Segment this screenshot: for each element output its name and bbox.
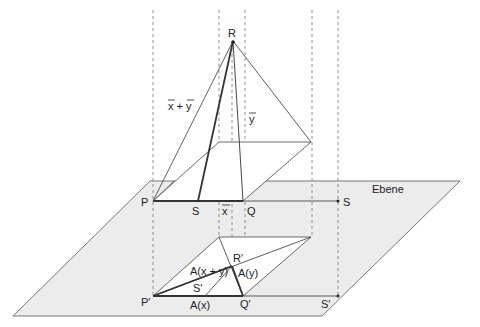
diagram-canvas: R P S Q S x y x + y Ebene R′ P′ S′ Q′ S′… <box>0 0 480 327</box>
label-R: R <box>228 27 236 39</box>
label-x-plus-y: x + y <box>168 100 192 112</box>
label-Q-prime: Q′ <box>240 298 251 310</box>
label-ebene: Ebene <box>372 183 404 195</box>
label-x-vector: x <box>222 205 228 217</box>
label-R-prime: R′ <box>233 252 243 264</box>
label-y-vector: y <box>249 113 255 125</box>
label-S-right: S <box>343 196 350 208</box>
label-A-x: A(x) <box>190 299 210 311</box>
label-P-prime: P′ <box>141 296 150 308</box>
parallel-projection-diagram: R P S Q S x y x + y Ebene R′ P′ S′ Q′ S′… <box>0 0 480 327</box>
label-S: S <box>192 205 199 217</box>
label-S-prime: S′ <box>193 282 202 294</box>
label-P: P <box>141 196 148 208</box>
label-S-prime-right: S′ <box>321 298 330 310</box>
label-A-y: A(y) <box>238 267 258 279</box>
label-A-x-plus-y: A(x + y) <box>190 265 228 277</box>
label-Q: Q <box>247 205 256 217</box>
